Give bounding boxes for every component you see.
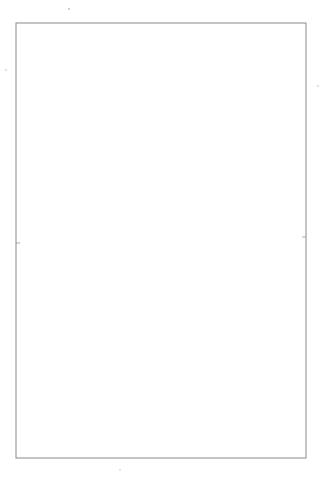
page-speck-top (68, 8, 70, 10)
page-speck-bottom (119, 469, 120, 470)
page-speck-right (317, 85, 319, 87)
map-figure: Map of the Malay Peninsula study area up… (0, 0, 323, 477)
map-canvas (0, 0, 323, 477)
map-frame (16, 23, 306, 458)
page-speck-left (5, 69, 7, 71)
